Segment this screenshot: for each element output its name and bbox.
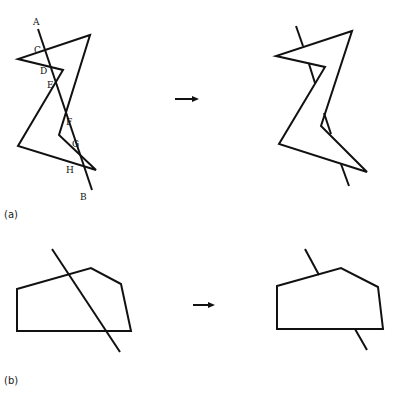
convex-polygon-after <box>277 268 383 329</box>
arrow-right-icon <box>175 96 199 102</box>
arrow-right-icon <box>193 302 215 308</box>
line-segment <box>341 164 349 186</box>
clipped-line-segments <box>305 249 367 350</box>
clip-line <box>52 249 120 352</box>
caption-b: (b) <box>4 375 18 386</box>
clipped-line-segments <box>296 26 349 186</box>
concave-polygon-before <box>18 35 96 170</box>
point-label-c: C <box>34 45 41 55</box>
point-label-a: A <box>32 17 40 27</box>
panel-b: (b) <box>4 249 383 386</box>
line-segment <box>296 26 303 46</box>
convex-polygon-before <box>17 268 131 331</box>
point-label-h: H <box>66 165 74 175</box>
point-label-d: D <box>40 66 47 76</box>
line-segment <box>355 329 367 350</box>
panel-a: ACDEFGHB (a) <box>4 17 367 220</box>
diagram-canvas: ACDEFGHB (a) (b) <box>0 0 408 402</box>
line-segment <box>305 249 319 275</box>
line-segment <box>309 64 315 83</box>
concave-polygon-after <box>276 31 367 172</box>
point-label-f: F <box>66 117 72 127</box>
point-label-e: E <box>47 80 54 90</box>
point-label-g: G <box>72 139 79 149</box>
caption-a: (a) <box>4 209 18 220</box>
point-label-b: B <box>80 192 87 202</box>
